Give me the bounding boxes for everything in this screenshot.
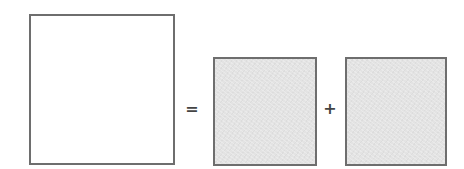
- term-1-matrix-box: [213, 57, 317, 166]
- term-2-matrix-box: [345, 57, 447, 166]
- lhs-matrix-box: [29, 14, 175, 165]
- plus-sign: +: [322, 101, 338, 117]
- equals-sign: =: [184, 101, 200, 117]
